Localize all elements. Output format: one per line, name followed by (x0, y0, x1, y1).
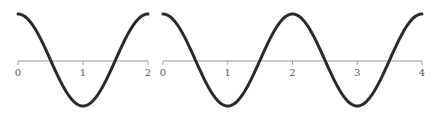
x-tick-label: 0 (160, 67, 166, 78)
x-tick-label: 2 (145, 67, 151, 78)
x-tick-label: 1 (225, 67, 231, 78)
x-tick-label: 3 (354, 67, 360, 78)
plot-right: 01234 (160, 14, 425, 106)
cosine-curve (18, 14, 148, 106)
plot-left: 012 (15, 14, 151, 106)
plots-canvas: 01201234 (0, 0, 437, 120)
x-tick-label: 1 (80, 67, 86, 78)
x-tick-label: 4 (419, 67, 425, 78)
x-tick-label: 0 (15, 67, 21, 78)
cosine-curve (163, 14, 422, 106)
x-tick-label: 2 (289, 67, 295, 78)
